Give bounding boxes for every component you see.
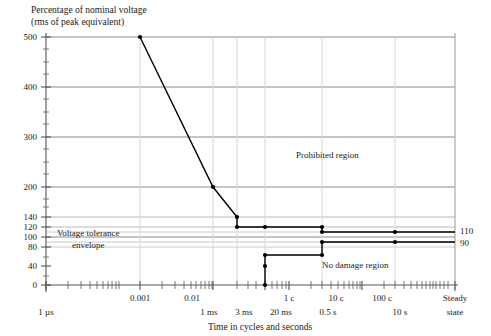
ylabel-140: 140 (24, 212, 38, 222)
xlabel-0.01: 0.01 (184, 293, 200, 303)
data-point (138, 35, 142, 39)
data-point-markers (138, 35, 397, 287)
data-point (235, 225, 239, 229)
data-point (393, 240, 397, 244)
data-point (263, 253, 267, 257)
data-point (393, 230, 397, 234)
annotation-voltage-tolerance-envelope-line1: Voltage tolerance (57, 228, 120, 238)
y-axis-title-line1: Percentage of nominal voltage (31, 5, 147, 15)
ylabel-0: 0 (33, 280, 38, 290)
annotation-prohibited-region: Prohibited region (296, 150, 359, 160)
x-axis-title: Time in cycles and seconds (208, 322, 312, 332)
ylabel-300: 300 (24, 132, 38, 142)
gridlines (46, 37, 455, 247)
data-point (263, 283, 267, 287)
xlabel-1us: 1 µs (38, 307, 54, 317)
xlabel-10c: 10 c (328, 293, 343, 303)
data-point (235, 215, 239, 219)
right-edge-label-90: 90 (460, 238, 470, 248)
xlabel-100c: 100 c (372, 293, 392, 303)
xlabel-20ms: 20 ms (270, 307, 292, 317)
y-axis-tick-labels: 500 400 300 200 140 120 100 80 40 0 (24, 32, 38, 290)
data-point (263, 225, 267, 229)
annotation-voltage-tolerance-envelope-line2: envelope (72, 240, 104, 250)
voltage-tolerance-chart: Percentage of nominal voltage (rms of pe… (0, 0, 491, 336)
upper-envelope-curve (140, 37, 455, 232)
x-axis-tick-labels-upper: 0.001 0.01 1 c 10 c 100 c Steady (130, 293, 468, 303)
chart-svg: Percentage of nominal voltage (rms of pe… (0, 0, 491, 336)
vertical-guides (140, 37, 395, 285)
xlabel-10s: 10 s (393, 307, 408, 317)
annotation-no-damage-region: No damage region (322, 260, 389, 270)
ylabel-200: 200 (24, 182, 38, 192)
xlabel-0.001: 0.001 (130, 293, 150, 303)
ylabel-100: 100 (24, 232, 38, 242)
data-point (320, 230, 324, 234)
xlabel-1ms: 1 ms (200, 307, 218, 317)
ylabel-80: 80 (28, 242, 38, 252)
y-axis-title-line2: (rms of peak equivalent) (31, 17, 124, 28)
data-point (320, 240, 324, 244)
data-point (320, 225, 324, 229)
xlabel-steady-line2: state (447, 307, 464, 317)
xlabel-1c: 1 c (284, 293, 295, 303)
xlabel-0.5s: 0.5 s (319, 307, 337, 317)
ylabel-400: 400 (24, 82, 38, 92)
x-axis-tick-labels-lower: 1 µs 1 ms 3 ms 20 ms 0.5 s 10 s state (38, 307, 463, 317)
right-edge-label-110: 110 (460, 226, 474, 236)
data-point (320, 253, 324, 257)
data-point (263, 264, 267, 268)
ylabel-40: 40 (28, 261, 38, 271)
ylabel-120: 120 (24, 222, 38, 232)
data-point (211, 185, 215, 189)
xlabel-3ms: 3 ms (235, 307, 253, 317)
ylabel-500: 500 (24, 32, 38, 42)
xlabel-steady-line1: Steady (443, 293, 468, 303)
